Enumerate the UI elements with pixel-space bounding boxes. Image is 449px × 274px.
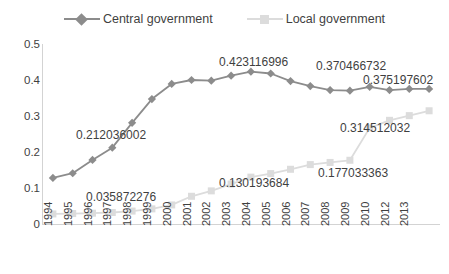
square-marker-icon (247, 13, 283, 25)
data-point-marker (385, 86, 393, 94)
data-point-label: 0.212036002 (76, 128, 146, 142)
data-point-marker (406, 112, 413, 119)
legend-label-local-government: Local government (286, 12, 385, 26)
data-point-marker (188, 193, 195, 200)
data-point-label: 0.177033363 (318, 166, 388, 180)
legend-item-local-government[interactable]: Local government (247, 12, 385, 26)
data-point-label: 0.370466732 (316, 59, 386, 73)
y-axis-tick-label: 0.4 (4, 74, 40, 86)
x-axis-tick-label: 1999 (141, 202, 153, 226)
y-axis-labels: 00.10.20.30.40.5 (0, 44, 40, 225)
data-point-label: 0.314512032 (340, 121, 410, 135)
x-axis-tick-label: 2012 (379, 202, 391, 226)
data-point-marker (327, 159, 334, 166)
data-point-label: 0.130193684 (219, 176, 289, 190)
data-point-marker (286, 77, 294, 85)
x-axis-tick-label: 1996 (82, 202, 94, 226)
data-point-marker (267, 69, 275, 77)
x-axis-tick-label: 1994 (42, 202, 54, 226)
line-chart: Central government Local government 00.1… (0, 0, 449, 274)
legend-item-central-government[interactable]: Central government (64, 12, 213, 26)
x-axis-tick-label: 2001 (181, 202, 193, 226)
data-point-marker (49, 174, 57, 182)
data-point-marker (346, 157, 353, 164)
x-axis-tick-label: 2002 (200, 202, 212, 226)
data-point-marker (307, 161, 314, 168)
y-axis-tick-label: 0.2 (4, 146, 40, 158)
x-axis-tick-label: 2003 (220, 202, 232, 226)
x-axis-tick-label: 2005 (260, 202, 272, 226)
data-point-marker (227, 72, 235, 80)
data-point-marker (346, 87, 354, 95)
x-axis-tick-label: 1997 (101, 202, 113, 226)
x-axis-tick-label: 1998 (121, 202, 133, 226)
data-point-marker (426, 107, 433, 114)
y-axis-tick-label: 0 (4, 218, 40, 230)
x-axis-tick-label: 2007 (299, 202, 311, 226)
x-axis-tick-label: 2000 (161, 202, 173, 226)
x-axis-tick-label: 2004 (240, 202, 252, 226)
x-axis-tick-label: 2010 (359, 202, 371, 226)
x-axis-tick-label: 2013 (398, 202, 410, 226)
data-point-marker (306, 82, 314, 90)
data-point-marker (287, 166, 294, 173)
x-axis-tick-label: 2009 (339, 202, 351, 226)
diamond-marker-icon (64, 13, 100, 25)
y-axis-tick-label: 0.5 (4, 38, 40, 50)
data-point-marker (208, 187, 215, 194)
y-axis-tick-label: 0.1 (4, 182, 40, 194)
legend-label-central-government: Central government (103, 12, 213, 26)
data-point-label: 0.423116996 (219, 55, 288, 69)
data-point-marker (326, 86, 334, 94)
data-point-label: 0.035872276 (86, 190, 156, 204)
data-point-marker (207, 77, 215, 85)
x-axis-labels: 1994199519961997199819992000200120022003… (43, 226, 439, 274)
data-point-label: 0.375197602 (363, 73, 433, 87)
data-point-marker (187, 76, 195, 84)
x-axis-tick-label: 2008 (319, 202, 331, 226)
chart-legend: Central government Local government (0, 8, 449, 30)
y-axis-tick-label: 0.3 (4, 110, 40, 122)
x-axis-tick-label: 1995 (62, 202, 74, 226)
x-axis-tick-label: 2006 (280, 202, 292, 226)
